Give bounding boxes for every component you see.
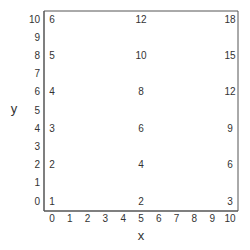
data-label: 12 [135, 14, 147, 25]
y-tick-label: 9 [34, 32, 40, 43]
y-tick-label: 1 [34, 177, 40, 188]
data-label: 6 [227, 159, 233, 170]
data-labels: 12345624681012369121518 [49, 14, 236, 207]
data-label: 15 [224, 50, 236, 61]
y-tick-label: 4 [34, 123, 40, 134]
x-tick-label: 0 [49, 213, 55, 224]
x-tick-label: 9 [209, 213, 215, 224]
x-tick-label: 3 [103, 213, 109, 224]
chart: 012345678910 012345678910 12345624681012… [0, 0, 250, 250]
y-tick-label: 8 [34, 50, 40, 61]
y-tick-label: 2 [34, 159, 40, 170]
x-tick-label: 4 [120, 213, 126, 224]
x-tick-label: 8 [192, 213, 198, 224]
data-label: 4 [49, 86, 55, 97]
y-tick-label: 7 [34, 68, 40, 79]
data-label: 3 [227, 196, 233, 207]
y-tick-label: 10 [29, 14, 41, 25]
y-tick-labels: 012345678910 [29, 14, 41, 207]
y-tick-label: 0 [34, 196, 40, 207]
y-axis-label: y [11, 101, 18, 116]
x-tick-label: 2 [85, 213, 91, 224]
x-tick-label: 7 [174, 213, 180, 224]
y-tick-label: 6 [34, 86, 40, 97]
data-label: 3 [49, 123, 55, 134]
data-label: 9 [227, 123, 233, 134]
data-label: 10 [135, 50, 147, 61]
data-label: 6 [138, 123, 144, 134]
x-tick-label: 10 [224, 213, 236, 224]
y-tick-label: 3 [34, 141, 40, 152]
x-tick-label: 6 [156, 213, 162, 224]
data-label: 12 [224, 86, 236, 97]
data-label: 4 [138, 159, 144, 170]
x-tick-label: 5 [138, 213, 144, 224]
data-label: 18 [224, 14, 236, 25]
data-label: 1 [49, 196, 55, 207]
x-axis-label: x [138, 228, 145, 243]
x-tick-labels: 012345678910 [49, 213, 236, 224]
x-tick-label: 1 [67, 213, 73, 224]
data-label: 8 [138, 86, 144, 97]
data-label: 6 [49, 14, 55, 25]
data-label: 2 [49, 159, 55, 170]
data-label: 2 [138, 196, 144, 207]
y-tick-label: 5 [34, 105, 40, 116]
data-label: 5 [49, 50, 55, 61]
